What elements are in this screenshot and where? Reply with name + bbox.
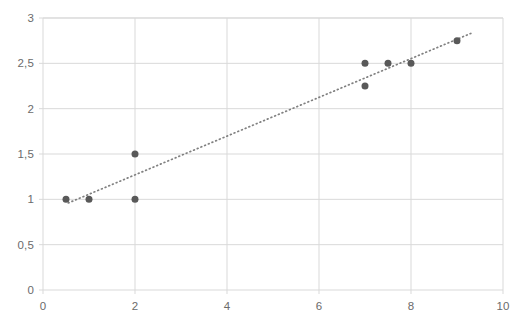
data-point-marker: [454, 37, 461, 44]
y-tick-label: 2,5: [0, 57, 34, 69]
plot-area: [0, 0, 518, 328]
x-tick-label: 6: [316, 300, 323, 312]
y-tick-label: 1,5: [0, 148, 34, 160]
x-tick-label: 4: [224, 300, 231, 312]
data-point-marker: [408, 60, 415, 67]
y-tick-label: 0: [0, 284, 34, 296]
x-tick-label: 8: [408, 300, 415, 312]
y-axis-ticks: [39, 18, 43, 290]
y-tick-label: 0,5: [0, 239, 34, 251]
data-point-marker: [132, 196, 139, 203]
scatter-chart: 00,511,522,53 0246810: [0, 0, 518, 328]
x-tick-label: 0: [40, 300, 47, 312]
data-point-marker: [86, 196, 93, 203]
data-point-marker: [362, 83, 369, 90]
x-tick-label: 2: [132, 300, 139, 312]
x-tick-label: 10: [496, 300, 509, 312]
data-point-marker: [63, 196, 70, 203]
data-point-marker: [362, 60, 369, 67]
y-tick-label: 2: [0, 103, 34, 115]
data-point-marker: [132, 151, 139, 158]
x-axis-ticks: [43, 290, 503, 294]
y-tick-label: 1: [0, 193, 34, 205]
data-point-marker: [385, 60, 392, 67]
y-tick-label: 3: [0, 12, 34, 24]
